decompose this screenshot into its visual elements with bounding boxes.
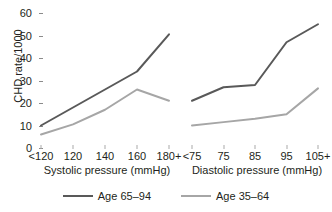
panel-diastolic: Diastolic pressure (mmHg) <75758595105+ [186,0,328,155]
x-axis-tick-systolic-4: 180+ [157,150,182,162]
legend-swatch-1 [181,195,211,197]
y-axis-tick-60: 60 [20,8,32,19]
x-axis-label-diastolic: Diastolic pressure (mmHg) [186,164,328,176]
panel-systolic: Systolic pressure (mmHg) <12012014016018… [37,0,177,155]
x-axis-tickmark-diastolic-4 [318,145,319,149]
x-axis-tick-diastolic-0: <75 [183,150,202,162]
x-axis-tick-diastolic-1: 75 [217,150,229,162]
x-axis-tickmark-systolic-3 [137,145,138,149]
x-axis-tickmark-systolic-2 [105,145,106,149]
legend-swatch-0 [63,195,93,197]
chd-rate-line-chart: CHD rate/1000 0102030405060 Systolic pre… [0,0,332,212]
legend-label-1: Age 35–64 [216,190,269,202]
y-axis-tick-40: 40 [20,53,32,64]
panel-systolic-lines [37,0,177,155]
series-line-diastolic-0 [192,24,318,101]
x-axis-tick-systolic-3: 160 [128,150,146,162]
legend-label-0: Age 65–94 [98,190,151,202]
x-axis-tick-diastolic-3: 95 [280,150,292,162]
x-axis-tickmark-diastolic-2 [255,145,256,149]
x-axis-tickmark-diastolic-0 [192,145,193,149]
series-line-diastolic-1 [192,88,318,125]
x-axis-tick-systolic-0: <120 [29,150,54,162]
y-axis-tick-50: 50 [20,31,32,42]
y-axis-tick-30: 30 [20,76,32,87]
x-axis-tick-diastolic-2: 85 [249,150,261,162]
x-axis-tickmark-systolic-1 [73,145,74,149]
legend-item-0: Age 65–94 [63,190,151,202]
x-axis-tickmark-diastolic-3 [286,145,287,149]
x-axis-label-systolic: Systolic pressure (mmHg) [37,164,177,176]
legend-item-1: Age 35–64 [181,190,269,202]
x-axis-tickmark-systolic-0 [41,145,42,149]
series-line-systolic-1 [41,90,169,135]
panel-diastolic-lines [186,0,328,155]
x-axis-tick-systolic-2: 140 [96,150,114,162]
chart-legend: Age 65–94Age 35–64 [0,185,332,207]
x-axis-tickmark-diastolic-1 [223,145,224,149]
x-axis-tick-diastolic-4: 105+ [306,150,331,162]
x-axis-tickmark-systolic-4 [169,145,170,149]
y-axis-tick-20: 20 [20,98,32,109]
y-axis-tick-group: 0102030405060 [6,0,32,160]
x-axis-tick-systolic-1: 120 [64,150,82,162]
y-axis-tick-10: 10 [20,121,32,132]
series-line-systolic-0 [41,34,169,125]
